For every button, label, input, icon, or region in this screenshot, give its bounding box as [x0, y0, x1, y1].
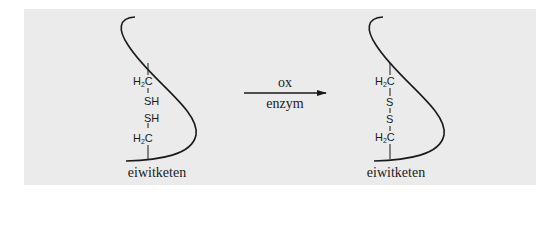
left-ch2-top: H2C: [133, 76, 153, 88]
left-sh-bottom: SH: [144, 113, 159, 124]
right-s-bottom: S: [386, 114, 393, 125]
left-sh-top: SH: [144, 96, 159, 107]
arrow-label-above: ox: [278, 76, 292, 90]
right-s-top: S: [386, 97, 393, 108]
left-chain-label: eiwitketen: [128, 166, 186, 180]
arrow-label-below: enzym: [266, 97, 303, 111]
right-chain-label: eiwitketen: [367, 166, 425, 180]
left-ch2-bottom: H2C: [133, 133, 153, 145]
right-ch2-bottom: H2C: [375, 132, 395, 144]
right-ch2-top: H2C: [375, 76, 395, 88]
